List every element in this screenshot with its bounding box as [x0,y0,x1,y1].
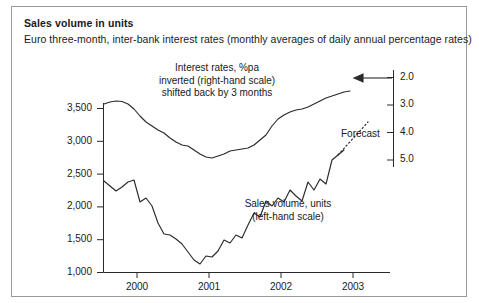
y-right-tick-label-5: 5.0 [400,153,430,164]
y-left-tick-label-1000: 1,000 [48,266,92,277]
y-left-tick-label-1500: 1,500 [48,233,92,244]
annotation-forecast: Forecast [341,128,380,141]
annotation-sales-line-1: Sales volume, units [232,198,344,211]
arrow-head [354,74,363,82]
annotation-interest-line-1: Interest rates, %pa [133,62,301,75]
x-tick-label-2001: 2001 [189,281,229,292]
series-interest-rates [104,91,350,158]
chart-figure: Sales volume in units Euro three-month, … [0,0,479,303]
interest-rate-pointer-arrow [354,74,392,82]
annotation-sales-volume: Sales volume, units (left-hand scale) [232,198,344,223]
x-tick-label-2000: 2000 [117,281,157,292]
x-tick-label-2002: 2002 [261,281,301,292]
y-right-tick-label-3: 3.0 [400,98,430,109]
axis-left [97,103,104,273]
chart-plot-area [0,0,479,303]
annotation-sales-line-2: (left-hand scale) [232,211,344,224]
y-left-tick-label-3000: 3,000 [48,135,92,146]
x-tick-label-2003: 2003 [333,281,373,292]
y-left-tick-label-2500: 2,500 [48,168,92,179]
axis-right [387,70,394,167]
annotation-interest-line-2: inverted (right-hand scale) [133,75,301,88]
y-left-tick-label-3500: 3,500 [48,102,92,113]
y-right-tick-label-4: 4.0 [400,126,430,137]
annotation-interest-line-3: shifted back by 3 months [133,87,301,100]
annotation-interest-rates: Interest rates, %pa inverted (right-hand… [133,62,301,100]
axis-bottom [104,273,391,279]
y-left-tick-label-2000: 2,000 [48,200,92,211]
y-right-tick-label-2: 2.0 [400,71,430,82]
